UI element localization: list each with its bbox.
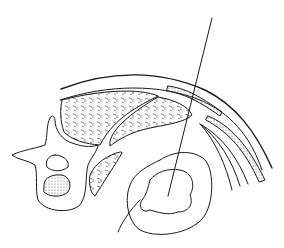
kidney-outer xyxy=(127,153,212,235)
psoas-muscle xyxy=(89,152,122,196)
spinal-canal xyxy=(46,155,68,171)
anatomy-diagram xyxy=(0,0,284,248)
vertebral-body xyxy=(44,175,70,196)
renal-pelvis xyxy=(140,169,192,213)
